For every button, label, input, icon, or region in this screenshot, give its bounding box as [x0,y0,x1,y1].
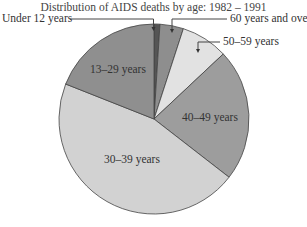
label-under-12: Under 12 years [2,12,73,25]
label-40-49: 40–49 years [182,111,238,124]
label-50-59: 50–59 years [223,35,279,48]
label-30-39: 30–39 years [104,153,160,166]
label-13-29: 13–29 years [90,63,146,76]
pie-chart: Under 12 years 60 years and over 50–59 y… [0,0,307,227]
label-60-plus: 60 years and over [230,12,307,25]
